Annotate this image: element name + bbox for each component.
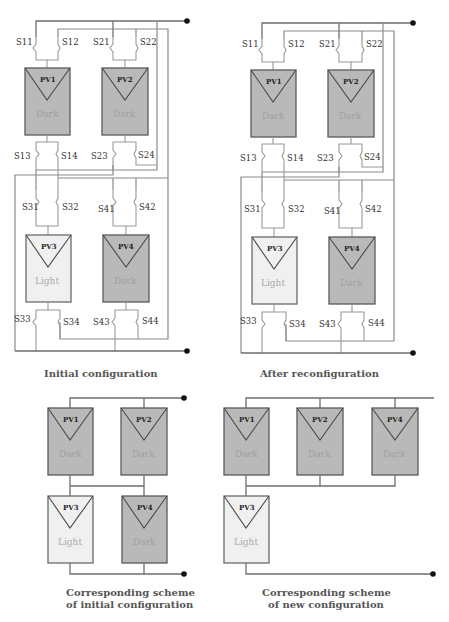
- pv4-label: PV4: [118, 242, 134, 251]
- switch-label: S11: [16, 37, 33, 47]
- pv1-label: PV1: [40, 75, 56, 84]
- switch-label: S34: [289, 319, 306, 329]
- caption-initial: Initial configuration: [44, 368, 158, 379]
- pv1-label: PV1: [63, 415, 79, 424]
- pv3-label: PV3: [267, 244, 283, 253]
- switch-label: S33: [240, 316, 257, 326]
- pv3-label: PV3: [63, 503, 79, 512]
- switch-label: S22: [140, 37, 157, 47]
- pv4-label: PV4: [344, 244, 360, 253]
- pv3-label: PV3: [41, 242, 57, 251]
- caption-scheme-new-line1: Corresponding scheme: [262, 587, 391, 598]
- positive-terminal: [410, 20, 416, 26]
- pv3-state: Light: [58, 537, 82, 547]
- positive-terminal: [181, 395, 187, 401]
- switch-label: S23: [317, 153, 334, 163]
- pv2-label: PV2: [312, 415, 328, 424]
- switch-label: S42: [365, 204, 382, 214]
- switch-label: S11: [242, 39, 259, 49]
- pv4-state: Dark: [383, 449, 406, 459]
- pv1-state: Dark: [36, 109, 59, 119]
- switch-label: S41: [98, 204, 115, 214]
- negative-terminal: [410, 350, 416, 356]
- switch-label: S31: [244, 204, 261, 214]
- initial-configuration-diagram: PV1 Dark PV2 Dark PV3 Light PV4 Dark: [14, 18, 190, 379]
- pv2-state: Dark: [132, 449, 155, 459]
- switch-label: S33: [14, 314, 31, 324]
- pv1-state: Dark: [262, 111, 285, 121]
- caption-scheme-initial-line2: of initial configuration: [66, 599, 194, 610]
- reconfigured-diagram: PV1 Dark PV2 Dark PV3 Light PV4 Dark S11…: [240, 20, 416, 379]
- switch-label: S12: [62, 37, 79, 47]
- pv4-state: Dark: [114, 276, 137, 286]
- switch-label: S31: [22, 202, 39, 212]
- switch-label: S24: [138, 150, 155, 160]
- switch-label: S44: [368, 318, 385, 328]
- switch-label: S32: [288, 204, 305, 214]
- switch-label: S44: [142, 316, 159, 326]
- switch-label: S13: [14, 151, 31, 161]
- switch-label: S43: [93, 317, 110, 327]
- pv3-state: Light: [234, 537, 258, 547]
- pv2-state: Dark: [308, 449, 331, 459]
- pv1-state: Dark: [235, 449, 258, 459]
- switch-label: S22: [366, 39, 383, 49]
- pv2-state: Dark: [113, 109, 136, 119]
- scheme-initial-diagram: PV1 Dark PV2 Dark PV3 Light PV4 Dark Cor…: [48, 395, 195, 610]
- pv4-label: PV4: [137, 503, 153, 512]
- negative-terminal: [430, 571, 436, 577]
- pv4-state: Dark: [340, 278, 363, 288]
- pv4-label: PV4: [387, 415, 403, 424]
- pv2-state: Dark: [339, 111, 362, 121]
- switch-label: S13: [240, 153, 257, 163]
- negative-terminal: [181, 571, 187, 577]
- caption-scheme-initial-line1: Corresponding scheme: [66, 587, 195, 598]
- pv4-state: Dark: [133, 537, 156, 547]
- pv2-label: PV2: [117, 75, 133, 84]
- pv2-label: PV2: [343, 77, 359, 86]
- pv1-label: PV1: [239, 415, 255, 424]
- switch-label: S21: [319, 39, 336, 49]
- pv1-label: PV1: [266, 77, 282, 86]
- scheme-new-diagram: PV1 Dark PV2 Dark PV4 Dark PV3 Light Cor…: [224, 398, 436, 610]
- positive-terminal: [184, 18, 190, 24]
- switch-label: S21: [93, 37, 110, 47]
- pv3-state: Light: [261, 278, 285, 288]
- switch-label: S34: [63, 317, 80, 327]
- pv2-label: PV2: [136, 415, 152, 424]
- pv3-state: Light: [35, 276, 59, 286]
- negative-terminal: [184, 348, 190, 354]
- switch-label: S32: [62, 202, 79, 212]
- pv3-label: PV3: [239, 503, 255, 512]
- switch-label: S42: [139, 202, 156, 212]
- caption-scheme-new-line2: of new configuration: [268, 599, 385, 610]
- switch-label: S12: [288, 39, 305, 49]
- pv1-state: Dark: [59, 449, 82, 459]
- switch-label: S14: [287, 153, 304, 163]
- switch-label: S41: [324, 206, 341, 216]
- switch-label: S24: [364, 152, 381, 162]
- caption-reconfigured: After reconfiguration: [259, 368, 380, 379]
- switch-label: S23: [91, 151, 108, 161]
- switch-label: S43: [319, 319, 336, 329]
- switch-label: S14: [61, 151, 78, 161]
